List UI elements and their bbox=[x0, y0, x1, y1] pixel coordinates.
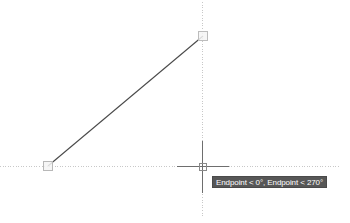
endpoint-snap-marker-end[interactable] bbox=[199, 32, 208, 41]
clipped-toolbar-glyphs: ⌐ ⌐ ⌐ bbox=[8, 220, 29, 223]
osnap-tooltip: Endpoint < 0°, Endpoint < 270° bbox=[212, 176, 327, 188]
diagonal-line[interactable] bbox=[48, 36, 203, 166]
drawing-canvas[interactable]: Endpoint < 0°, Endpoint < 270° bbox=[0, 0, 350, 223]
endpoint-snap-marker-start[interactable] bbox=[44, 162, 53, 171]
cad-application-window: Endpoint < 0°, Endpoint < 270° ⌐ ⌐ ⌐ bbox=[0, 0, 350, 223]
clipped-toolbar-strip: ⌐ ⌐ ⌐ bbox=[0, 211, 350, 223]
drawing-vector-layer bbox=[0, 0, 350, 223]
